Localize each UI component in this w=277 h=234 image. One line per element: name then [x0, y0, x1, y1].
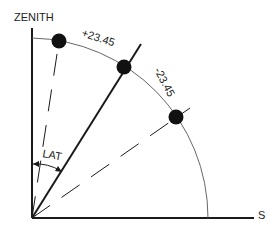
winter-declination-label: -23.45	[152, 65, 177, 98]
solar-angle-diagram: ZENITH S LAT +23.45 -23.45	[0, 0, 277, 234]
equinox-sun	[117, 60, 132, 75]
summer-ray	[32, 41, 59, 218]
summer-declination-label: +23.45	[80, 26, 116, 48]
zenith-label: ZENITH	[14, 11, 54, 23]
latitude-label: LAT	[42, 147, 63, 162]
summer-solstice-sun	[52, 34, 67, 49]
south-label: S	[258, 209, 265, 221]
winter-ray	[32, 108, 190, 218]
latitude-arrow-right-icon	[55, 166, 62, 172]
latitude-arrow-left-icon	[33, 161, 39, 167]
winter-solstice-sun	[169, 110, 184, 125]
